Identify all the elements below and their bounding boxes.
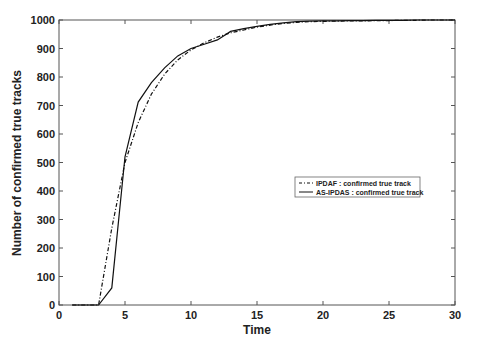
- y-tick-label: 1000: [31, 14, 55, 26]
- legend: IPDAF : confirmed true trackAS-IPDAS : c…: [295, 177, 423, 197]
- x-tick-label: 10: [185, 309, 197, 321]
- y-tick-label: 0: [49, 299, 55, 311]
- y-tick-label: 600: [37, 128, 55, 140]
- y-tick-label: 100: [37, 271, 55, 283]
- series-lines: [72, 20, 455, 305]
- y-tick-label: 900: [37, 43, 55, 55]
- legend-label: AS-IPDAS : confirmed true track: [316, 189, 423, 196]
- y-tick-label: 500: [37, 157, 55, 169]
- series-as-ipdas-line: [72, 20, 455, 305]
- y-axis: 01002003004005006007008009001000: [31, 14, 455, 311]
- y-tick-label: 200: [37, 242, 55, 254]
- legend-label: IPDAF : confirmed true track: [316, 180, 411, 187]
- x-axis: 051015202530: [56, 20, 461, 321]
- plot-area: [59, 20, 455, 305]
- y-tick-label: 800: [37, 71, 55, 83]
- plot-frame: [59, 20, 455, 305]
- series-ipdaf-line: [72, 20, 455, 305]
- x-tick-label: 15: [251, 309, 263, 321]
- x-tick-label: 20: [317, 309, 329, 321]
- y-tick-label: 300: [37, 214, 55, 226]
- line-chart: 01002003004005006007008009001000 0510152…: [0, 0, 484, 349]
- y-tick-label: 700: [37, 100, 55, 112]
- x-tick-label: 30: [449, 309, 461, 321]
- x-axis-label: Time: [243, 323, 271, 337]
- x-tick-label: 0: [56, 309, 62, 321]
- y-tick-label: 400: [37, 185, 55, 197]
- x-tick-label: 5: [122, 309, 128, 321]
- x-tick-label: 25: [383, 309, 395, 321]
- y-axis-label: Number of confirmed true tracks: [10, 70, 24, 256]
